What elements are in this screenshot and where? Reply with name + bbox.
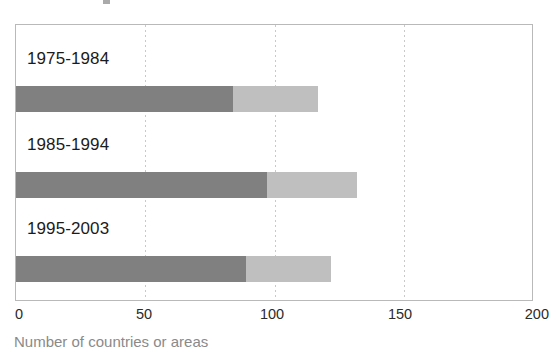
category-label-1995-2003: 1995-2003 [27,219,109,239]
table-row [16,256,331,282]
category-label-1985-1994: 1985-1994 [27,135,109,155]
bar-segment-light-2 [267,172,357,198]
gridline-150 [404,25,405,300]
bar-segment-dark-1 [16,86,233,112]
bar-segment-light-3 [246,256,331,282]
x-tick-label-200: 200 [525,306,549,322]
bar-segment-dark-3 [16,256,246,282]
x-axis-caption: Number of countries or areas [14,333,208,350]
x-tick-label-150: 150 [388,306,412,322]
cropped-text-artifact [103,0,110,4]
category-label-1975-1984: 1975-1984 [27,49,109,69]
table-row [16,86,318,112]
table-row [16,172,357,198]
bar-segment-dark-2 [16,172,267,198]
x-tick-label-0: 0 [15,306,23,322]
x-tick-label-50: 50 [136,306,152,322]
bar-segment-light-1 [233,86,318,112]
x-tick-label-100: 100 [260,306,284,322]
bar-chart: 1975-1984 1985-1994 1995-2003 0 50 100 1… [0,0,551,359]
